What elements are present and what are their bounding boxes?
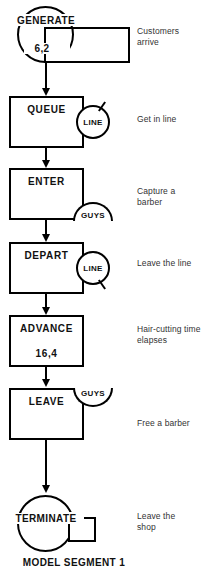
depart-label: DEPART	[11, 250, 82, 261]
note-depart: Leave the line	[137, 258, 195, 269]
connector-depart-advance	[45, 294, 47, 307]
leave-label: LEAVE	[11, 396, 82, 407]
leave-entity-label: GUYS	[81, 388, 105, 398]
depart-entity-line: LINE	[76, 251, 110, 285]
note-leave: Free a barber	[137, 418, 203, 429]
note-enter: Capture a barber	[137, 186, 197, 208]
advance-label: ADVANCE	[11, 323, 82, 334]
advance-operands: 16,4	[11, 348, 82, 359]
connector-leave-terminate	[45, 440, 47, 486]
generate-operands: 6,2	[24, 43, 60, 54]
connector-advance-leave	[45, 367, 47, 379]
arrowhead-generate-queue	[42, 88, 50, 96]
note-advance: Hair-cutting time elapses	[137, 324, 203, 346]
depart-entity-label: LINE	[83, 264, 102, 273]
generate-label: GENERATE	[13, 15, 79, 26]
note-terminate: Leave the shop	[137, 511, 195, 533]
queue-label: QUEUE	[11, 104, 82, 115]
arrowhead-leave-terminate	[42, 485, 50, 493]
enter-entity-label: GUYS	[81, 212, 105, 221]
arrowhead-advance-leave	[42, 379, 50, 387]
arrowhead-enter-depart	[42, 234, 50, 242]
queue-block: QUEUE	[9, 96, 84, 148]
model-segment-diagram: GENERATE 6,2 QUEUE LINE ENTER GUYS DEPAR…	[0, 0, 207, 575]
advance-block: ADVANCE 16,4	[9, 315, 84, 367]
note-generate: Customers arrive	[137, 26, 201, 48]
connector-enter-depart	[45, 220, 47, 234]
arrowhead-queue-enter	[42, 160, 50, 168]
enter-block: ENTER	[9, 168, 84, 220]
arrowhead-depart-advance	[42, 307, 50, 315]
connector-generate-queue	[45, 63, 47, 89]
note-queue: Get in line	[137, 114, 201, 125]
queue-entity-label: LINE	[83, 118, 102, 127]
enter-label: ENTER	[11, 176, 82, 187]
diagram-caption: MODEL SEGMENT 1	[0, 557, 148, 568]
queue-entity-line: LINE	[76, 105, 110, 139]
depart-block: DEPART	[9, 242, 84, 294]
leave-block: LEAVE	[9, 388, 84, 440]
terminate-label: TERMINATE	[8, 513, 84, 524]
